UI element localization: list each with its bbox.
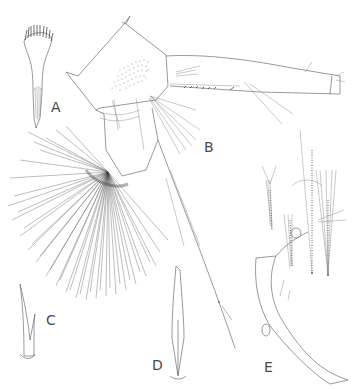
- panel-a-drawing: [24, 25, 53, 128]
- panel-label-a: A: [51, 100, 61, 114]
- illustration-canvas: [0, 0, 355, 389]
- illustrator-signature: [218, 301, 232, 320]
- panel-c-drawing: [20, 284, 35, 359]
- panel-d-drawing: [170, 266, 186, 379]
- panel-label-e: E: [264, 360, 273, 374]
- setal-fan: [8, 126, 168, 300]
- panel-e-drawing: [256, 130, 348, 384]
- figure: A B C D E: [0, 0, 355, 389]
- panel-label-d: D: [152, 358, 163, 372]
- panel-label-b: B: [204, 140, 214, 154]
- panel-label-c: C: [46, 313, 56, 327]
